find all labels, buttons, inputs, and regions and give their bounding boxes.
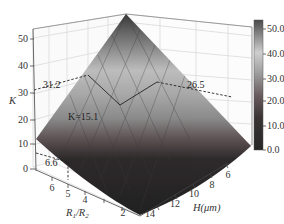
z-tick-50: 50 bbox=[18, 33, 28, 44]
x-tick-4: 4 bbox=[83, 194, 88, 205]
y-tick-6: 6 bbox=[226, 169, 231, 180]
colorbar-tick-20: 20.0 bbox=[267, 95, 284, 106]
z-tick-0: 0 bbox=[23, 163, 28, 174]
colorbar-tick-10: 10.0 bbox=[267, 120, 284, 131]
annotation-k-15-1: K=15.1 bbox=[68, 111, 98, 122]
x-tick-5: 5 bbox=[66, 188, 71, 199]
y-tick-14: 14 bbox=[145, 208, 155, 219]
x-tick-6: 6 bbox=[50, 182, 55, 193]
annotation-26-5: 26.5 bbox=[187, 79, 205, 90]
colorbar-tick-40: 40.0 bbox=[267, 48, 284, 59]
y-tick-12: 12 bbox=[170, 198, 180, 209]
colorbar-tick-30: 30.0 bbox=[267, 73, 284, 84]
surface-chart: 50 40 30 20 10 0 K 6 5 4 2 R1/R2 bbox=[0, 0, 284, 224]
colorbar: 50.0 40.0 30.0 20.0 10.0 0.0 bbox=[254, 20, 284, 155]
colorbar-tick-0: 0.0 bbox=[267, 144, 280, 155]
colorbar-tick-50: 50.0 bbox=[267, 23, 284, 34]
y-tick-10: 10 bbox=[189, 188, 199, 199]
z-axis: 50 40 30 20 10 0 K bbox=[8, 29, 36, 174]
z-tick-10: 10 bbox=[18, 138, 28, 149]
x-axis-title: R1/R2 bbox=[65, 207, 89, 220]
y-tick-8: 8 bbox=[210, 179, 215, 190]
annotation-6-6: 6.6 bbox=[45, 157, 58, 168]
z-tick-30: 30 bbox=[18, 87, 28, 98]
z-tick-20: 20 bbox=[18, 114, 28, 125]
annotation-31-2: 31.2 bbox=[43, 79, 61, 90]
z-tick-40: 40 bbox=[18, 60, 28, 71]
x-tick-2: 2 bbox=[121, 207, 126, 218]
z-axis-title: K bbox=[8, 95, 17, 106]
y-axis-title: H(μm) bbox=[192, 202, 221, 214]
